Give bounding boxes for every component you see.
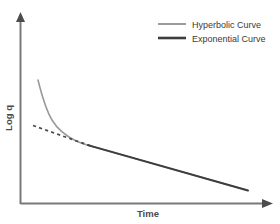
data-series-group <box>33 80 248 191</box>
legend-label-hyperbolic: Hyperbolic Curve <box>192 20 261 30</box>
chart-canvas: Hyperbolic Curve Exponential Curve Time … <box>0 0 280 224</box>
series-line-exponential-solid <box>88 145 248 190</box>
y-axis-arrowhead <box>16 12 25 22</box>
y-axis-title: Log q <box>3 105 14 131</box>
legend: Hyperbolic Curve Exponential Curve <box>158 20 266 44</box>
series-line-exponential-dashed <box>33 126 92 147</box>
chart-figure: Hyperbolic Curve Exponential Curve Time … <box>0 0 280 224</box>
legend-label-exponential: Exponential Curve <box>192 34 266 44</box>
x-axis-title: Time <box>137 208 159 219</box>
x-axis-arrowhead <box>262 199 273 208</box>
series-line-hyperbolic <box>38 80 248 191</box>
legend-item-hyperbolic[interactable]: Hyperbolic Curve <box>158 20 261 30</box>
legend-item-exponential[interactable]: Exponential Curve <box>158 34 266 44</box>
